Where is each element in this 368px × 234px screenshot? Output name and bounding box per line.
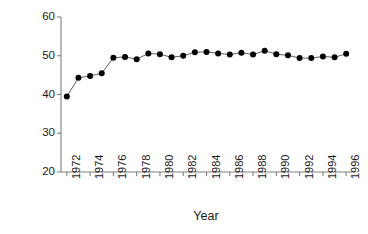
data-series-line [67, 51, 346, 97]
x-tick-label: 1988 [257, 155, 268, 179]
y-axis-ticks [57, 17, 61, 172]
x-axis-title: Year [60, 208, 352, 224]
y-tick-label: 20 [29, 166, 55, 177]
y-tick-label: 40 [29, 89, 55, 100]
x-tick-label: 1974 [94, 155, 105, 179]
x-tick-label: 1976 [117, 155, 128, 179]
y-tick-label: 50 [29, 50, 55, 61]
chart-container: % of Model Act benefits 2030405060 19721… [0, 0, 368, 234]
x-tick-label: 1990 [280, 155, 291, 179]
y-tick-label: 60 [29, 11, 55, 22]
data-series-markers [64, 48, 349, 100]
x-tick-label: 1994 [327, 155, 338, 179]
x-tick-label: 1986 [234, 155, 245, 179]
x-tick-label: 1984 [211, 155, 222, 179]
x-tick-label: 1996 [350, 155, 361, 179]
x-tick-label: 1978 [141, 155, 152, 179]
y-tick-label: 30 [29, 127, 55, 138]
x-tick-label: 1982 [187, 155, 198, 179]
x-tick-label: 1972 [71, 155, 82, 179]
x-tick-label: 1980 [164, 155, 175, 179]
plot-area [0, 0, 368, 234]
x-tick-label: 1992 [304, 155, 315, 179]
